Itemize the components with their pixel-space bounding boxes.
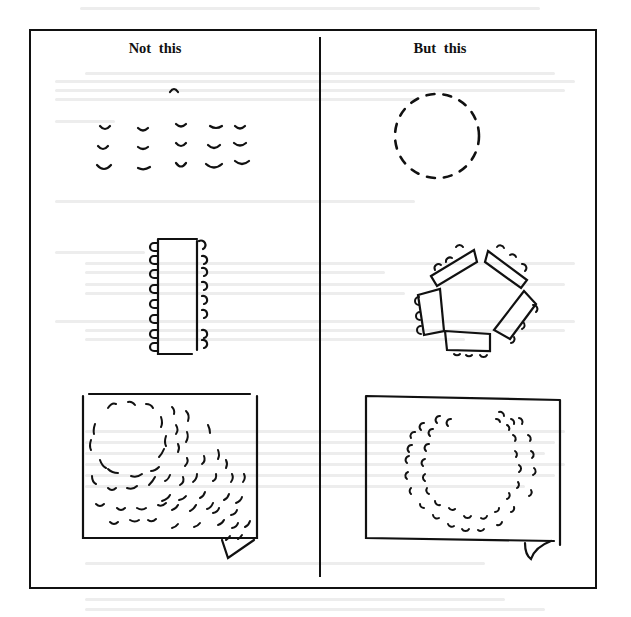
table-top-right: [485, 251, 527, 288]
chairs-left: [150, 243, 158, 351]
room-outline: [366, 396, 560, 545]
pentagon-tables-diagram: [415, 245, 537, 357]
table-bottom: [445, 331, 490, 351]
table-right: [494, 291, 536, 339]
table-left: [418, 289, 444, 335]
page-curl-icon: [222, 540, 254, 558]
scattered-chairs: [90, 402, 250, 540]
circle-of-chairs-diagram: [395, 94, 479, 178]
double-circle-room-diagram: [366, 396, 560, 559]
chairs-right: [199, 241, 207, 348]
page-curl-icon: [525, 541, 551, 559]
crowded-room-diagram: [83, 394, 257, 558]
room-outline: [83, 394, 257, 538]
leader-chair-icon: [170, 89, 178, 92]
table-icon: [158, 239, 197, 354]
long-table-diagram: [150, 239, 207, 354]
chair-rows: [97, 124, 249, 169]
double-ring-chairs: [405, 412, 535, 531]
rows-of-chairs-diagram: [97, 89, 249, 169]
table-top-left: [431, 250, 477, 286]
